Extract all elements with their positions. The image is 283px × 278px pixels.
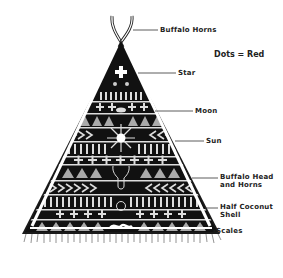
label-buffalo-head: Buffalo Head bbox=[220, 173, 274, 181]
label-star: Star bbox=[178, 69, 195, 77]
label-buffalo-head-line2: and Horns bbox=[220, 181, 262, 189]
label-half-coconut: Half Coconut bbox=[220, 203, 273, 211]
fringe bbox=[24, 234, 221, 243]
moon-icon bbox=[116, 108, 126, 113]
label-half-coconut-line2: Shell bbox=[220, 211, 241, 219]
buffalo-horns-icon bbox=[112, 16, 132, 42]
label-scales: -Scales bbox=[213, 227, 243, 235]
label-moon: Moon bbox=[195, 107, 217, 115]
label-sun: Sun bbox=[206, 137, 222, 145]
tipi-diagram bbox=[0, 0, 283, 278]
sun-icon bbox=[107, 124, 135, 152]
label-buffalo-horns: Buffalo Horns bbox=[160, 26, 217, 34]
legend-dots-red: Dots = Red bbox=[214, 50, 264, 59]
